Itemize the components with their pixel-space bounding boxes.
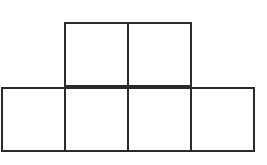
square-r1-c1: [65, 88, 128, 151]
square-r1-c2: [128, 88, 191, 151]
square-r0-c2: [128, 23, 191, 86]
square-r0-c1: [65, 23, 128, 86]
square-net-diagram: [0, 0, 267, 165]
square-r1-c3: [191, 88, 254, 151]
square-r1-c0: [2, 88, 65, 151]
